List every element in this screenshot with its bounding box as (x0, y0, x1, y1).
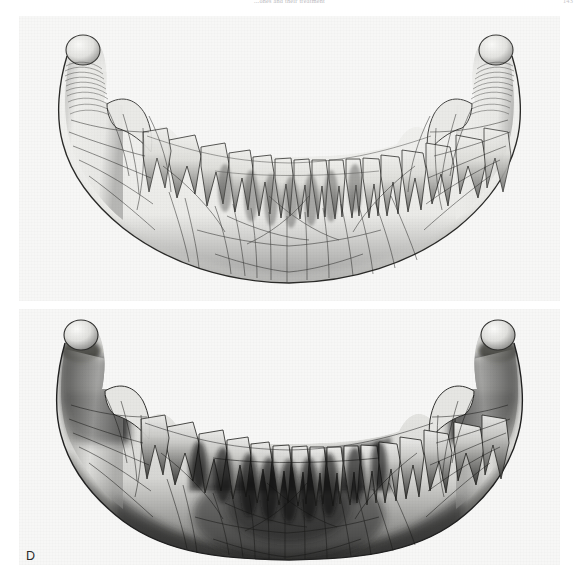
upper-mandible-illustration (19, 16, 560, 301)
upper-mandible-drawing (19, 16, 560, 301)
figure-page: ...ones and their treatment 143 (0, 0, 579, 571)
page-folio-number: 143 (563, 0, 573, 4)
figure-panel-letter: D (26, 549, 35, 563)
condylar-process-left (66, 35, 100, 65)
condylar-process-left-lower (64, 320, 98, 350)
running-header-title: ...ones and their treatment (254, 0, 325, 4)
lower-mandible-drawing (19, 309, 560, 565)
running-header: ...ones and their treatment 143 (0, 0, 579, 6)
condylar-process-right (479, 35, 513, 65)
condylar-process-right-lower (481, 320, 515, 350)
lower-mandible-illustration (19, 309, 560, 565)
